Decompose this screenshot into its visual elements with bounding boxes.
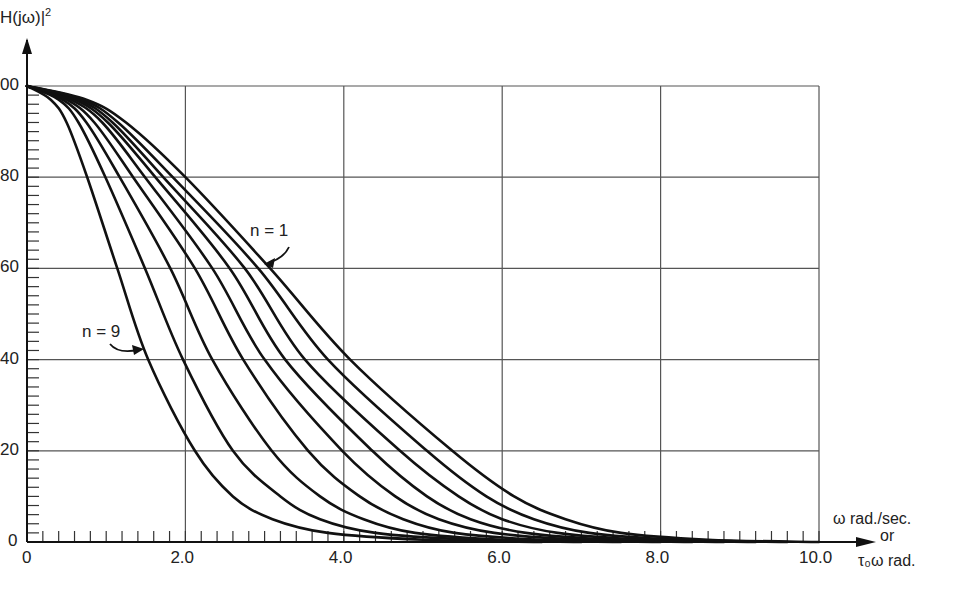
- annotation-arrows: [110, 247, 289, 355]
- x-unit-label-1: ω rad./sec.: [833, 510, 911, 528]
- x-tick-label: 0: [22, 548, 31, 568]
- x-unit-label-3: τ₀ω rad.: [858, 552, 915, 570]
- curve-n2: [27, 86, 787, 542]
- y-tick-label: 80: [0, 166, 19, 186]
- annotation-n1: n = 1: [250, 221, 288, 241]
- x-tick-label: 8.0: [646, 548, 670, 568]
- y-tick-label: 60: [0, 257, 19, 277]
- curve-n8: [27, 86, 581, 542]
- y-axis-title-superscript: 2: [45, 6, 51, 18]
- x-unit-label-2: or: [880, 527, 894, 545]
- y-axis-title-text: H(jω)|: [0, 8, 45, 27]
- curve-n9: [27, 86, 542, 542]
- y-tick-label: 0: [8, 531, 17, 551]
- curve-n5: [27, 86, 692, 542]
- axis-minor-ticks: [27, 95, 819, 542]
- y-axis-arrow-icon: [22, 38, 32, 54]
- y-tick-label: 40: [0, 349, 19, 369]
- chart-canvas: [0, 0, 961, 605]
- curve-n1: [27, 86, 819, 542]
- y-tick-label: 20: [0, 440, 19, 460]
- y-axis-title: H(jω)|2: [0, 6, 51, 28]
- x-tick-label: 10.0: [799, 548, 832, 568]
- annotation-n9: n = 9: [82, 322, 120, 342]
- grid-lines: [27, 86, 819, 542]
- response-curves: [27, 86, 819, 542]
- y-tick-label: 00: [0, 75, 19, 95]
- x-tick-label: 4.0: [329, 548, 353, 568]
- x-tick-label: 6.0: [487, 548, 511, 568]
- x-tick-label: 2.0: [170, 548, 194, 568]
- x-axis-arrow-icon: [856, 537, 876, 547]
